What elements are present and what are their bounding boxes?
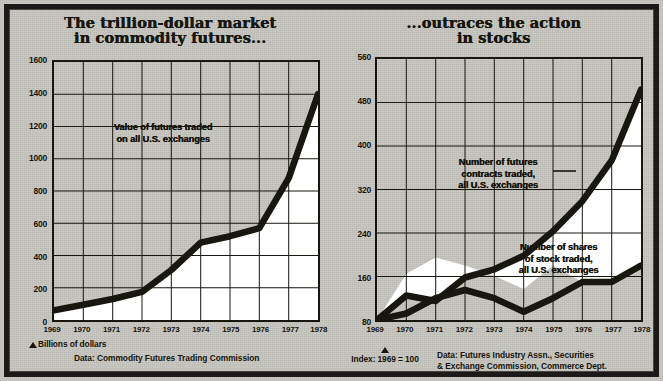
right-ytick-160: 160 (357, 273, 371, 283)
left-plot-frame (52, 60, 320, 322)
right-ytick-240: 240 (357, 229, 371, 239)
right-title-line-2: in stocks (333, 30, 654, 45)
right-futures-annotation-line-1: Number of futures (459, 157, 538, 167)
infographic-page: The trillion-dollar market in commodity … (0, 0, 663, 381)
chart-panel-futures-vs-stocks: ...outraces the action in stocks 560 480… (333, 9, 654, 372)
triangle-marker-icon-right (381, 347, 389, 353)
right-stocks-annotation-line-3: all U.S. exchanges (519, 265, 599, 275)
left-xtick-1975: 1975 (222, 325, 239, 334)
right-y-axis-labels: 560 480 400 320 240 160 80 (335, 57, 375, 322)
right-xtick-1974: 1974 (515, 325, 532, 334)
right-area-between-curves (377, 90, 641, 320)
right-xtick-1975: 1975 (545, 325, 562, 334)
left-title-line-2: in commodity futures... (9, 30, 331, 45)
left-source-text: Data: Commodity Futures Trading Commissi… (74, 353, 259, 363)
left-xtick-1973: 1973 (163, 325, 180, 334)
left-ytick-800: 800 (33, 186, 47, 196)
right-xtick-1972: 1972 (456, 325, 473, 334)
chart-panel-commodity-futures: The trillion-dollar market in commodity … (9, 9, 331, 372)
left-xtick-1977: 1977 (282, 325, 299, 334)
right-xtick-1971: 1971 (426, 325, 443, 334)
right-xtick-1976: 1976 (575, 325, 592, 334)
left-ytick-1200: 1200 (29, 121, 47, 131)
left-series-annotation: Value of futures traded on all U.S. exch… (78, 122, 248, 145)
left-ytick-400: 400 (33, 252, 47, 262)
left-x-axis-labels: 1969 1970 1971 1972 1973 1974 1975 1976 … (52, 322, 320, 340)
left-chart-svg (54, 62, 318, 320)
triangle-marker-icon (29, 342, 37, 348)
left-ytick-200: 200 (33, 284, 47, 294)
right-futures-annotation-line-3: all U.S. exchanges (458, 180, 538, 190)
left-annotation-line-1: Value of futures traded (114, 122, 212, 132)
right-stocks-annotation: Number of shares of stock traded, all U.… (491, 242, 626, 277)
left-annotation-line-2: on all U.S. exchanges (116, 134, 209, 144)
right-futures-annotation-line-2: contracts traded, (461, 169, 535, 179)
left-xtick-1969: 1969 (44, 325, 61, 334)
left-ytick-1400: 1400 (29, 88, 47, 98)
left-ytick-1600: 1600 (29, 55, 47, 65)
right-xtick-1977: 1977 (605, 325, 622, 334)
left-ytick-600: 600 (33, 219, 47, 229)
right-plot-area: 560 480 400 320 240 160 80 (375, 57, 643, 322)
right-stocks-annotation-line-1: Number of shares (520, 242, 597, 252)
left-unit-note-text: Billions of dollars (38, 339, 106, 349)
right-unit-note-text: Index: 1969 = 100 (351, 354, 418, 364)
right-xtick-1973: 1973 (486, 325, 503, 334)
right-source-note: Data: Futures Industry Assn., Securities… (437, 350, 607, 371)
right-xtick-1978: 1978 (633, 325, 650, 334)
right-ytick-400: 400 (357, 140, 371, 150)
left-source-note: Data: Commodity Futures Trading Commissi… (74, 353, 259, 364)
right-ytick-560: 560 (357, 52, 371, 62)
left-plot-area: 1600 1400 1200 1000 800 600 400 200 0 (52, 60, 320, 322)
right-ytick-480: 480 (357, 96, 371, 106)
left-unit-note: Billions of dollars (29, 339, 106, 349)
left-xtick-1976: 1976 (252, 325, 269, 334)
right-xtick-1970: 1970 (396, 325, 413, 334)
left-xtick-1972: 1972 (133, 325, 150, 334)
right-ytick-320: 320 (357, 185, 371, 195)
right-source-line-2: & Exchange Commission, Commerce Dept. (437, 361, 607, 371)
right-source-line-1: Data: Futures Industry Assn., Securities (437, 350, 594, 360)
left-xtick-1974: 1974 (192, 325, 209, 334)
left-xtick-1978: 1978 (310, 325, 327, 334)
left-xtick-1971: 1971 (103, 325, 120, 334)
right-unit-note: Index: 1969 = 100 (335, 347, 435, 364)
left-xtick-1970: 1970 (73, 325, 90, 334)
right-chart-title: ...outraces the action in stocks (333, 15, 654, 45)
right-x-axis-labels: 1969 1970 1971 1972 1973 1974 1975 1976 … (375, 322, 643, 340)
right-futures-annotation: Number of futures contracts traded, all … (433, 157, 563, 192)
right-xtick-1969: 1969 (367, 325, 384, 334)
left-chart-title: The trillion-dollar market in commodity … (9, 15, 331, 45)
left-y-axis-labels: 1600 1400 1200 1000 800 600 400 200 0 (11, 60, 51, 322)
right-stocks-annotation-line-2: of stock traded, (525, 254, 593, 264)
left-ytick-1000: 1000 (29, 153, 47, 163)
